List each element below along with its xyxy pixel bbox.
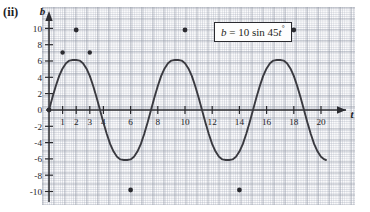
x-tick-label: 6: [128, 117, 133, 127]
equation-equals: =: [227, 26, 239, 38]
y-tick-label: 6: [37, 56, 42, 66]
marker-point: [291, 28, 296, 33]
x-tick-label: 2: [74, 117, 79, 127]
marker-point: [128, 188, 133, 193]
x-tick-label: 3: [88, 117, 93, 127]
marker-point: [237, 188, 242, 193]
x-tick-label: 12: [208, 117, 218, 127]
x-tick-label: 18: [289, 117, 299, 127]
x-tick-label: 14: [235, 117, 245, 127]
x-axis-arrow: [337, 106, 346, 113]
marker-point: [47, 108, 52, 113]
plot-canvas: 1 2 3 4 6 8 10 12 14 16 18 20 10 8 6 4 2…: [0, 0, 370, 212]
x-tick-labels: 1 2 3 4 6 8 10 12 14 16 18 20: [60, 117, 326, 127]
marker-point: [74, 28, 79, 33]
x-tick-label: 1: [60, 117, 65, 127]
equation-argument: 45: [268, 26, 279, 38]
marker-point: [60, 50, 64, 54]
y-tick-labels: 10 8 6 4 2 0 -2 -4 -6 -8 -10: [30, 24, 43, 197]
x-tick-label: 10: [180, 117, 190, 127]
equation-function: sin: [252, 26, 265, 38]
y-tick-label: 2: [37, 89, 42, 99]
x-tick-label: 20: [316, 117, 326, 127]
marker-point: [183, 28, 188, 33]
equation-amplitude: 10: [238, 26, 249, 38]
y-axis-arrow: [45, 11, 52, 21]
y-tick-label: 10: [33, 24, 43, 34]
y-tick-label: -6: [34, 154, 42, 164]
y-axis-label: b: [40, 5, 46, 17]
y-tick-label: -4: [34, 138, 42, 148]
y-tick-label: -10: [30, 187, 43, 197]
y-tick-label: 4: [37, 73, 42, 83]
x-tick-label: 8: [156, 117, 161, 127]
equation-callout: b = 10 sin 45t°: [214, 22, 292, 42]
x-tick-label: 16: [262, 117, 272, 127]
x-axis: [46, 106, 346, 113]
y-tick-label: 0: [37, 105, 42, 115]
marker-point: [88, 50, 92, 54]
degree-symbol: °: [282, 24, 285, 33]
y-tick-label: 8: [37, 40, 42, 50]
y-tick-label: -8: [34, 171, 42, 181]
sine-graph-figure: (ii): [0, 0, 370, 212]
x-axis-label: t: [350, 108, 354, 120]
y-tick-label: -2: [34, 122, 42, 132]
